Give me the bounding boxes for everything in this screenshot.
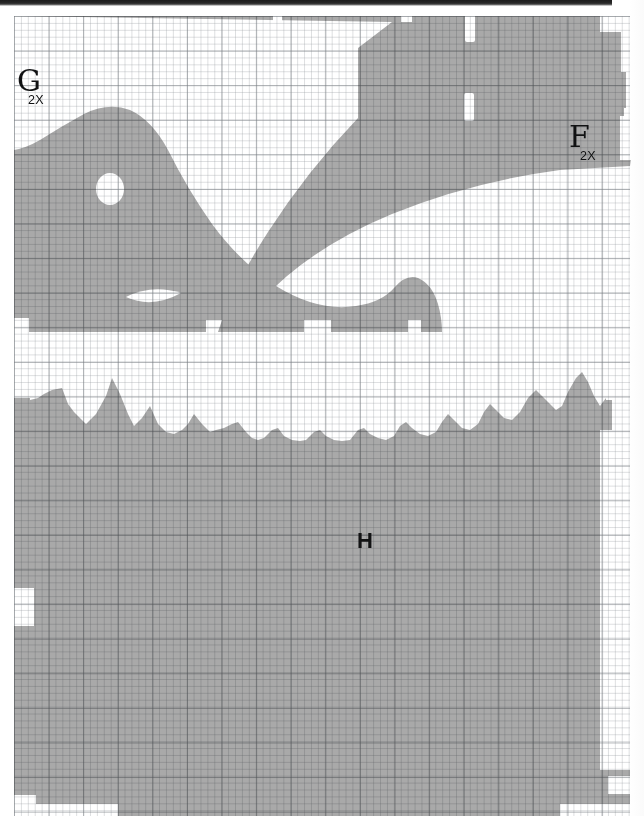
page-right-margin <box>630 0 644 827</box>
scanned-page: G 2X F 2X H <box>0 0 644 827</box>
page-bottom-margin <box>0 816 644 827</box>
annotation-g-subscript: 2X <box>28 93 44 107</box>
annotation-label-g: G 2X <box>17 66 44 107</box>
annotation-label-h: H <box>357 528 373 554</box>
annotation-label-f: F 2X <box>569 122 596 163</box>
region-lower-shaded-block <box>14 372 630 816</box>
scan-edge-band-top <box>0 0 644 6</box>
shaded-regions-layer <box>0 0 644 827</box>
page-left-margin <box>0 6 14 827</box>
annotation-f-subscript: 2X <box>580 149 596 163</box>
